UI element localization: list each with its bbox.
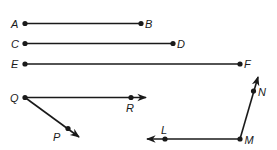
ray-mn	[240, 77, 258, 139]
point-d	[170, 41, 175, 46]
point-e	[22, 61, 27, 66]
label-l: L	[161, 124, 167, 136]
label-q: Q	[10, 92, 19, 104]
angle-lmn: M L N	[147, 77, 266, 146]
point-f	[237, 61, 242, 66]
segment-ef: E F	[11, 58, 252, 70]
point-c	[22, 41, 27, 46]
segment-cd: C D	[11, 38, 185, 50]
label-b: B	[145, 18, 152, 30]
label-f: F	[244, 58, 252, 70]
label-r: R	[126, 102, 134, 114]
point-q	[22, 95, 27, 100]
ray-qp	[25, 98, 79, 138]
point-l	[162, 136, 167, 141]
point-b	[138, 21, 143, 26]
segment-ab: A B	[10, 18, 152, 30]
geometry-diagram: A B C D E F Q R P M L N	[0, 0, 277, 150]
angle-pqr: Q R P	[10, 92, 146, 144]
point-a	[22, 21, 27, 26]
label-n: N	[258, 86, 266, 98]
label-a: A	[10, 18, 18, 30]
point-n	[251, 88, 256, 93]
point-m	[237, 136, 242, 141]
point-p	[65, 126, 70, 131]
label-p: P	[53, 131, 61, 143]
label-e: E	[11, 58, 19, 70]
label-d: D	[177, 38, 185, 50]
label-c: C	[11, 38, 19, 50]
label-m: M	[245, 134, 255, 146]
point-r	[128, 95, 133, 100]
